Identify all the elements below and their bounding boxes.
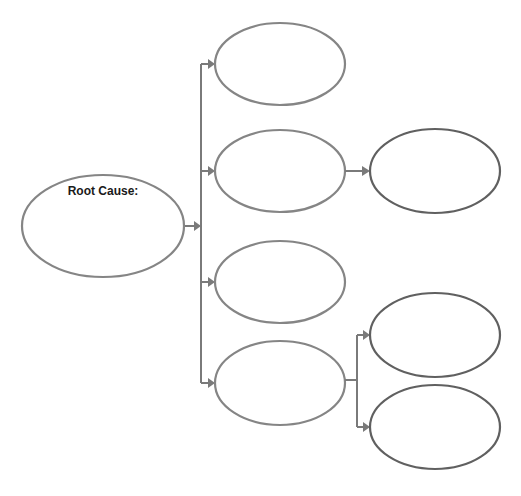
branch-arrow-4 [201, 378, 215, 388]
branch-arrow-3 [201, 277, 215, 287]
arrow-icon [362, 166, 370, 176]
sub-branch-split-4 [345, 330, 370, 432]
effect-node-2[interactable] [215, 130, 345, 212]
root-cause-label: Root Cause: [68, 184, 139, 198]
root-to-trunk-connector [185, 221, 201, 231]
sub-effect-node-3[interactable] [370, 385, 500, 469]
sub-effect-ellipse-2[interactable] [370, 293, 500, 377]
effect-node-1[interactable] [215, 23, 345, 105]
effect-node-4[interactable] [215, 341, 345, 425]
effect-ellipse-4[interactable] [215, 341, 345, 425]
sub-effect-ellipse-3[interactable] [370, 385, 500, 469]
sub-effect-node-2[interactable] [370, 293, 500, 377]
cause-effect-diagram: Root Cause: [0, 0, 521, 496]
sub-branch-arrow-2-1 [345, 166, 370, 176]
sub-effect-node-1[interactable] [370, 129, 500, 213]
effect-ellipse-1[interactable] [215, 23, 345, 105]
effect-node-3[interactable] [215, 241, 345, 323]
effect-ellipse-3[interactable] [215, 241, 345, 323]
branch-arrow-1 [201, 59, 215, 69]
branch-arrow-2 [201, 166, 215, 176]
effect-ellipse-2[interactable] [215, 130, 345, 212]
root-cause-node[interactable]: Root Cause: [22, 175, 184, 277]
sub-effect-ellipse-1[interactable] [370, 129, 500, 213]
arrow-icon [194, 221, 201, 231]
